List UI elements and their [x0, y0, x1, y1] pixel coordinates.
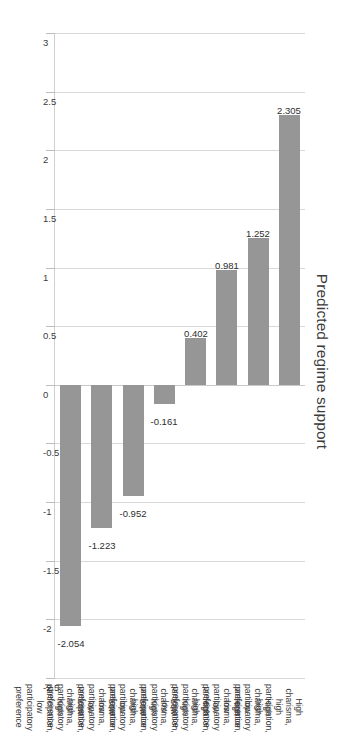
bar-value-label: -0.161: [151, 416, 178, 427]
axis-tick-label: 0.5: [43, 330, 56, 341]
bar-value-label: 0.981: [215, 260, 239, 271]
axis-tick-label: -2: [43, 623, 51, 634]
bar[interactable]: [279, 115, 300, 385]
bar[interactable]: [185, 338, 206, 385]
axis-tick: [46, 268, 55, 269]
category-label: Low charisma, high participation, high p…: [108, 684, 179, 730]
category-label: Low charisma, low participation, low par…: [77, 684, 148, 730]
bar-row: -0.161: [149, 33, 180, 678]
category-label: High charisma, high participation, high …: [233, 684, 304, 730]
bar[interactable]: [217, 270, 238, 385]
axis-tick: [46, 92, 55, 93]
axis-tick-label: 2: [43, 154, 48, 165]
gridline: [55, 678, 305, 679]
axis-tick: [46, 443, 55, 444]
bar-value-label: -1.223: [88, 540, 115, 551]
axis-tick: [46, 678, 55, 679]
bar[interactable]: [92, 385, 113, 528]
bar[interactable]: [123, 385, 144, 497]
axis-tick: [46, 619, 55, 620]
axis-tick: [46, 385, 55, 386]
axis-tick: [46, 33, 55, 34]
bar-row: -0.952: [118, 33, 149, 678]
page-title: Predicted regime support: [313, 274, 331, 450]
axis-tick-label: -1: [43, 506, 51, 517]
axis-tick-label: 3: [43, 37, 48, 48]
axis-tick-label: -0.5: [43, 447, 59, 458]
axis-tick-label: 1.5: [43, 213, 56, 224]
bar-row: 2.305: [274, 33, 305, 678]
axis-tick: [46, 561, 55, 562]
bar-value-label: 2.305: [277, 105, 301, 116]
axis-tick-label: -2.5: [43, 682, 59, 693]
axis-tick: [46, 502, 55, 503]
axis-tick: [46, 326, 55, 327]
bar-value-label: -0.952: [120, 508, 147, 519]
bar-row: 0.402: [180, 33, 211, 678]
axis-tick-label: 0: [43, 389, 48, 400]
category-label: High charisma, high participation, low p…: [139, 684, 210, 730]
bar-value-label: -2.054: [57, 638, 84, 649]
bar-row: -2.054: [55, 33, 86, 678]
category-label: High charisma, low participation, low pa…: [202, 684, 273, 730]
axis-tick-label: 2.5: [43, 96, 56, 107]
bar[interactable]: [248, 238, 269, 385]
axis-tick-label: -1.5: [43, 565, 59, 576]
category-label: High charisma, low participation, high p…: [170, 684, 241, 730]
axis-tick: [46, 150, 55, 151]
axis-tick-label: 1: [43, 272, 48, 283]
bar-value-label: 1.252: [246, 228, 270, 239]
bar[interactable]: [154, 385, 175, 404]
plot-area: 2.3051.2520.9810.402-0.161-0.952-1.223-2…: [55, 33, 305, 678]
bar-row: 1.252: [243, 33, 274, 678]
bar-row: 0.981: [211, 33, 242, 678]
bar[interactable]: [60, 385, 81, 626]
bar-row: -1.223: [86, 33, 117, 678]
chart-title-band: Predicted regime support: [305, 0, 339, 723]
value-axis: 32.521.510.50-0.5-1-1.5-2-2.5: [13, 33, 55, 678]
axis-tick: [46, 209, 55, 210]
bar-value-label: 0.402: [184, 328, 208, 339]
